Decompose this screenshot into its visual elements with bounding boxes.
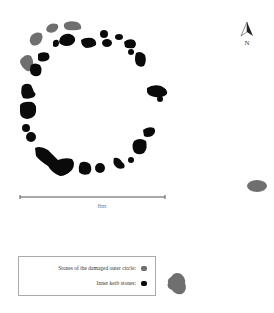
north-arrow-icon [241, 22, 253, 36]
north-label: N [241, 39, 253, 47]
inner-kerb-stones [20, 30, 167, 176]
legend-swatch-black [141, 281, 147, 286]
legend: Stones of the damaged outer circle: Inne… [18, 256, 156, 296]
scale-label: 8m [82, 202, 122, 210]
scale-bar [20, 195, 165, 199]
legend-item-outer-circle: Stones of the damaged outer circle: [58, 265, 147, 271]
legend-label: Stones of the damaged outer circle: [58, 265, 136, 271]
legend-swatch-grey [141, 266, 147, 271]
legend-item-inner-kerb: Inner kerb stones: [97, 280, 147, 286]
legend-label: Inner kerb stones: [97, 280, 136, 286]
